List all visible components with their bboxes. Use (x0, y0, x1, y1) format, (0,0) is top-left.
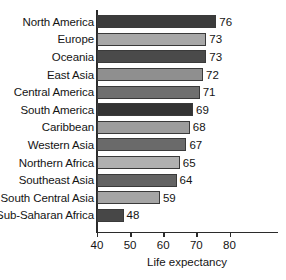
bar-value-label: 72 (206, 69, 219, 81)
x-tick-label: 50 (124, 239, 137, 252)
category-label: Oceania (52, 51, 94, 63)
bar-value-label: 59 (163, 192, 176, 204)
bar-row: South Central Asia59 (0, 189, 286, 207)
bar-row: East Asia72 (0, 66, 286, 84)
bar-value-label: 48 (127, 209, 140, 221)
bar-row: Western Asia67 (0, 136, 286, 154)
x-tick-mark (196, 232, 197, 237)
bar (97, 15, 216, 28)
category-label: South America (21, 104, 95, 116)
bar-value-label: 67 (189, 139, 202, 151)
x-tick-label: 80 (223, 239, 236, 252)
bar (97, 138, 186, 151)
bar-row: Sub-Saharan Africa48 (0, 207, 286, 225)
x-tick-label: 70 (190, 239, 203, 252)
category-label: Central America (14, 86, 94, 98)
x-tick-mark (97, 232, 98, 237)
bar (97, 68, 203, 81)
x-tick-label: 60 (157, 239, 170, 252)
bar-row: Southeast Asia64 (0, 171, 286, 189)
bar (97, 174, 177, 187)
category-label: East Asia (47, 69, 94, 81)
bar (97, 33, 206, 46)
bar-row: Oceania73 (0, 48, 286, 66)
bar-value-label: 76 (219, 16, 232, 28)
category-label: Western Asia (28, 139, 94, 151)
category-label: South Central Asia (1, 192, 94, 204)
bar-value-label: 73 (209, 51, 222, 63)
life-expectancy-bar-chart: North America76Europe73Oceania73East Asi… (0, 0, 286, 280)
category-label: Northern Africa (19, 157, 94, 169)
bar-row: South America69 (0, 101, 286, 119)
bar (97, 103, 193, 116)
category-label: Southeast Asia (19, 174, 94, 186)
bar-row: North America76 (0, 13, 286, 31)
bar-row: Europe73 (0, 31, 286, 49)
bar (97, 86, 200, 99)
bar-value-label: 64 (180, 174, 193, 186)
bar (97, 156, 180, 169)
bar-row: Caribbean68 (0, 119, 286, 137)
category-label: Sub-Saharan Africa (0, 209, 94, 221)
bar-value-label: 69 (196, 104, 209, 116)
bar (97, 191, 160, 204)
bar-value-label: 68 (193, 121, 206, 133)
category-label: Europe (58, 33, 94, 45)
x-axis-title: Life expectancy (96, 256, 278, 269)
x-tick-mark (230, 232, 231, 237)
bar-row: Northern Africa65 (0, 154, 286, 172)
bar-value-label: 71 (203, 86, 216, 98)
value-axis-line (96, 232, 278, 234)
category-label: North America (22, 16, 94, 28)
bar-row: Central America71 (0, 83, 286, 101)
bar (97, 50, 206, 63)
category-label: Caribbean (42, 121, 94, 133)
plot-area: North America76Europe73Oceania73East Asi… (0, 0, 286, 280)
bar-value-label: 65 (183, 157, 196, 169)
x-tick-label: 40 (91, 239, 104, 252)
bar (97, 209, 124, 222)
x-tick-mark (163, 232, 164, 237)
x-tick-mark (130, 232, 131, 237)
bar (97, 121, 190, 134)
bar-value-label: 73 (209, 33, 222, 45)
